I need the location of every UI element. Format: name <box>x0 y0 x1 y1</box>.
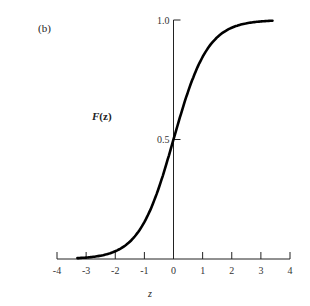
x-tick-label: -1 <box>140 265 148 276</box>
chart-plot: -4-3-2-1012340.51.0 <box>0 0 310 306</box>
x-tick-label: -3 <box>82 265 90 276</box>
x-tick-label: 2 <box>229 265 234 276</box>
x-tick-label: 3 <box>258 265 263 276</box>
x-tick-label: 0 <box>171 265 176 276</box>
x-tick-label: 4 <box>288 265 293 276</box>
x-tick-label: -2 <box>111 265 119 276</box>
y-tick-label: 1.0 <box>157 15 170 26</box>
x-tick-label: -4 <box>53 265 61 276</box>
y-tick-label: 0.5 <box>157 134 170 145</box>
x-tick-label: 1 <box>200 265 205 276</box>
